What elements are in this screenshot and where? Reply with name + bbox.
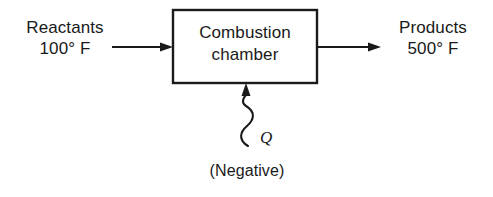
heat-transfer-wavy-arrow	[241, 83, 253, 146]
reactants-stream-label: Reactants 100° F	[10, 17, 120, 59]
products-temperature: 500° F	[378, 38, 488, 59]
reactants-inlet-arrow	[112, 43, 173, 52]
reactants-temperature: 100° F	[10, 38, 120, 59]
chamber-label-line-2: chamber	[173, 44, 317, 66]
products-stream-label: Products 500° F	[378, 17, 488, 59]
products-outlet-arrow	[317, 43, 381, 52]
heat-transfer-sign-note: (Negative)	[192, 160, 302, 181]
diagram-canvas: Reactants 100° F Combustion chamber Prod…	[0, 0, 493, 197]
combustion-chamber-label: Combustion chamber	[173, 22, 317, 66]
products-stream-name: Products	[378, 17, 488, 38]
chamber-label-line-1: Combustion	[173, 22, 317, 44]
reactants-stream-name: Reactants	[10, 17, 120, 38]
heat-transfer-symbol: Q	[260, 128, 272, 148]
